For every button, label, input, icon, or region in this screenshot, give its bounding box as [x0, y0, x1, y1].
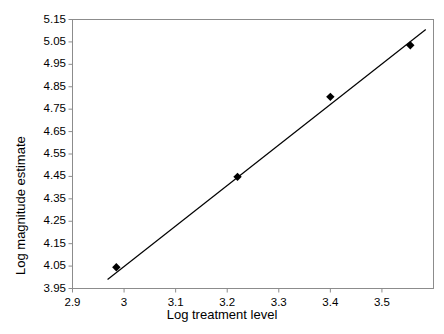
chart-container: 3.954.054.154.254.354.454.554.654.754.85… — [0, 0, 444, 334]
y-axis-title: Log magnitude estimate — [14, 136, 27, 275]
y-tick-label: 5.05 — [18, 36, 66, 48]
y-tick-label: 4.75 — [18, 103, 66, 115]
axes-frame — [73, 20, 434, 289]
y-tick-label: 4.85 — [18, 81, 66, 93]
x-tick-label: 2.9 — [65, 297, 81, 309]
y-tick-label: 3.95 — [18, 283, 66, 295]
plot-frame — [73, 20, 434, 289]
x-tick-label: 3.4 — [322, 297, 338, 309]
y-tick-label: 4.95 — [18, 59, 66, 71]
data-point-marker — [326, 93, 334, 101]
y-axis-ticks — [69, 20, 73, 289]
fitted-line — [108, 30, 426, 280]
x-tick-label: 3.5 — [374, 297, 390, 309]
data-points — [112, 41, 414, 271]
data-point-marker — [406, 41, 414, 49]
trend-line — [108, 30, 426, 280]
plot-area — [0, 0, 444, 334]
x-axis-ticks — [73, 289, 382, 293]
x-tick-label: 3 — [121, 297, 127, 309]
x-axis-title: Log treatment level — [0, 308, 444, 321]
y-tick-label: 5.15 — [18, 14, 66, 26]
